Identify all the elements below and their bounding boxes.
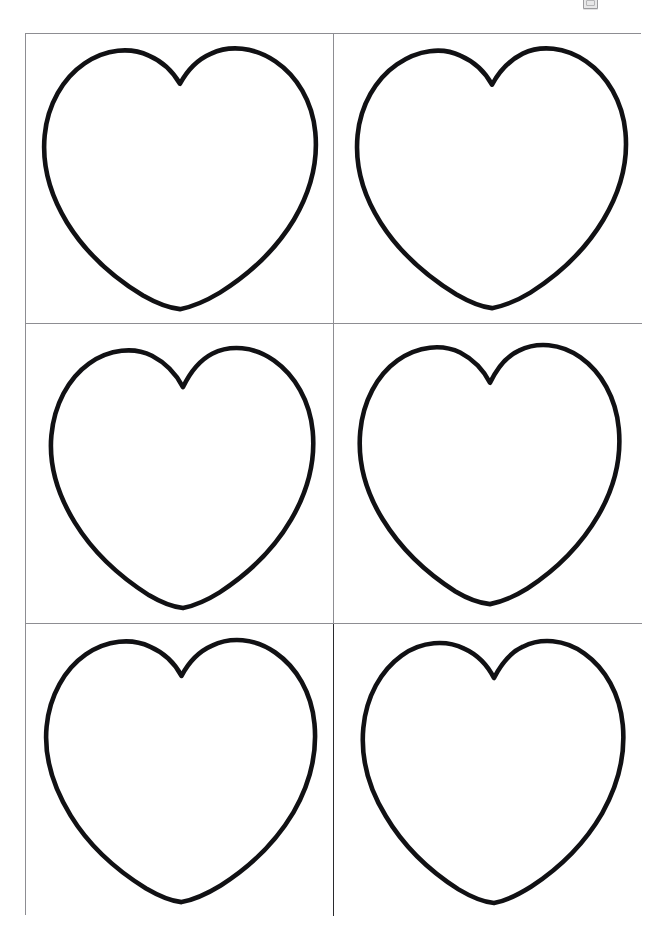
heart-outline-icon-1 xyxy=(34,42,326,314)
scan-artifact-icon xyxy=(583,0,598,9)
template-cell-1[interactable]: Heart template 1 xyxy=(26,34,334,324)
template-cell-6[interactable]: Heart template 6 xyxy=(334,624,642,916)
heart-outline-icon-2 xyxy=(348,41,636,313)
template-cell-3[interactable]: Heart template 3 xyxy=(26,324,334,624)
heart-outline-icon-5 xyxy=(38,633,325,906)
heart-outline-icon-3 xyxy=(42,338,324,613)
template-cell-4[interactable]: Heart template 4 xyxy=(334,324,642,624)
heart-outline-icon-4 xyxy=(350,336,630,609)
heart-template-sheet: Heart template 1 Heart template 2 Heart … xyxy=(25,33,641,915)
template-cell-2[interactable]: Heart template 2 xyxy=(334,34,642,324)
template-cell-5[interactable]: Heart template 5 xyxy=(26,624,334,916)
heart-outline-icon-6 xyxy=(354,633,634,907)
